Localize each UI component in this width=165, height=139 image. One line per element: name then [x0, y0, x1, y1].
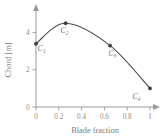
- x-tick-label-0: 0: [34, 113, 38, 121]
- point-label-group: C1C2C3C4: [38, 26, 141, 102]
- y-axis-arrow-icon: [33, 4, 39, 11]
- y-axis-title: Chord [m]: [4, 42, 13, 77]
- x-tick-label-0-4: 0.4: [77, 113, 86, 121]
- data-point-marker: [148, 87, 151, 90]
- x-axis-arrow-icon: [153, 104, 160, 110]
- y-tick-label-4: 4: [26, 29, 30, 37]
- y-tick-label-0: 0: [26, 104, 30, 112]
- point-label-c2: C2: [61, 26, 69, 36]
- data-point-marker: [108, 44, 111, 47]
- x-tick-label-1: 1: [148, 113, 152, 121]
- data-marker-group: [34, 22, 151, 91]
- chord-distribution-chart: 0 2 4 0 0.2 0.4 0.6 0.8 1 Blade fraction…: [0, 0, 165, 139]
- point-label-c4: C4: [132, 92, 140, 102]
- chord-curve: [36, 23, 150, 88]
- x-tick-label-0-6: 0.6: [100, 113, 109, 121]
- x-axis-title: Blade fraction: [71, 126, 119, 135]
- x-tick-label-0-8: 0.8: [123, 113, 132, 121]
- y-tick-label-2: 2: [26, 66, 30, 74]
- chart-plot-area: 0 2 4 0 0.2 0.4 0.6 0.8 1 Blade fraction…: [0, 0, 165, 139]
- point-label-c1: C1: [38, 44, 46, 54]
- data-point-marker: [64, 22, 67, 25]
- x-tick-label-0-2: 0.2: [54, 113, 63, 121]
